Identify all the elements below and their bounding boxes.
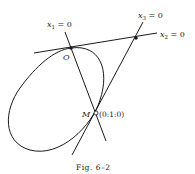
point-x2-x3-marker [134, 36, 138, 40]
figure-caption: Fig. 6–2 [76, 163, 110, 172]
line-x3 [72, 22, 143, 155]
label-point-M: M [81, 110, 91, 119]
label-x1: x1 = 0 [47, 20, 72, 30]
line-x2 [34, 33, 157, 53]
label-point-M-coords: (0:1:0) [99, 110, 124, 119]
point-M-marker [94, 111, 98, 115]
label-x3: x3 = 0 [138, 11, 163, 21]
conic-diagram: x1 = 0 x3 = 0 x2 = 0 O M (0:1:0) Fig. 6–… [0, 0, 195, 174]
conic-curve [8, 48, 103, 152]
point-O-marker [69, 46, 73, 50]
label-x2: x2 = 0 [160, 30, 185, 40]
label-point-O: O [63, 53, 70, 62]
